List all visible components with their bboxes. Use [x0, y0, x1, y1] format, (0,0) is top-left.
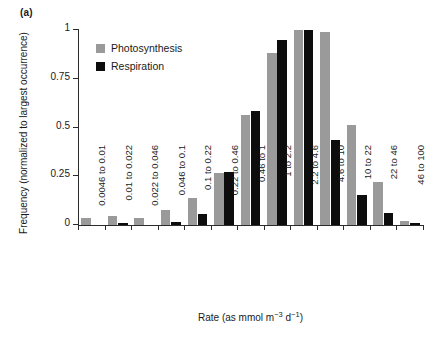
- legend-item-label: Respiration: [111, 60, 164, 72]
- bar-photosynthesis: [241, 115, 251, 225]
- x-axis-title: Rate (as mmol m−3 d−1): [78, 312, 423, 323]
- bar-photosynthesis: [400, 221, 410, 225]
- square-swatch-gray: [96, 44, 105, 53]
- x-axis-tick-label: 46 to 100: [415, 145, 427, 231]
- bar-photosynthesis: [294, 30, 304, 225]
- x-axis-tick: [78, 225, 79, 230]
- x-axis-title-mid: d: [283, 312, 291, 323]
- x-axis-title-exp2: −1: [291, 310, 300, 319]
- bar-photosynthesis: [108, 216, 118, 225]
- panel-label: (a): [20, 7, 33, 18]
- x-axis-tick-label: 0.046 to 0.1: [176, 145, 188, 231]
- bar-photosynthesis: [267, 53, 277, 225]
- bar-photosynthesis: [320, 32, 330, 225]
- y-axis-tick-label: 0.25: [51, 168, 70, 179]
- bar-photosynthesis: [373, 182, 383, 225]
- x-axis-title-exp1: −3: [274, 310, 283, 319]
- y-axis-tick-label: 0: [64, 217, 70, 228]
- x-axis-tick-label: 4.6 to 10: [335, 145, 347, 231]
- x-axis-tick-label: 2.2 to 4.6: [309, 145, 321, 231]
- x-axis-tick-label: 0.022 to 0.046: [149, 145, 161, 231]
- bar-photosynthesis: [347, 125, 357, 225]
- x-axis-tick-label: 1 to 2.2: [282, 145, 294, 231]
- bar-photosynthesis: [81, 218, 91, 225]
- square-swatch-black: [96, 62, 105, 71]
- x-axis-tick-label: 0.46 to 1: [256, 145, 268, 231]
- y-axis-tick-label: 0.5: [56, 120, 70, 131]
- y-axis-tick-label: 0.75: [51, 71, 70, 82]
- y-axis-title: Frequency (normalized to largest occurre…: [17, 18, 31, 248]
- x-axis-title-lead: Rate (as mmol m: [198, 312, 274, 323]
- legend-item: Respiration: [96, 58, 182, 74]
- bar-photosynthesis: [161, 210, 171, 225]
- legend-item: Photosynthesis: [96, 40, 182, 56]
- x-axis-tick-label: 22 to 46: [388, 145, 400, 231]
- x-axis-tick-label: 0.01 to 0.022: [123, 145, 135, 231]
- x-axis-title-tail: ): [300, 312, 303, 323]
- bar-photosynthesis: [188, 198, 198, 225]
- x-axis-tick-label: 0.22 to 0.46: [229, 145, 241, 231]
- x-axis-tick-label: 10 to 22: [362, 145, 374, 231]
- x-axis-tick-label: 0.1 to 0.22: [202, 145, 214, 231]
- legend-item-label: Photosynthesis: [111, 42, 182, 54]
- bar-photosynthesis: [214, 173, 224, 225]
- chart-legend: PhotosynthesisRespiration: [96, 40, 182, 76]
- figure-panel-a: (a) 00.250.50.751 0.0046 to 0.010.01 to …: [0, 0, 437, 340]
- bar-photosynthesis: [134, 218, 144, 225]
- x-axis-tick-label: 0.0046 to 0.01: [96, 145, 108, 231]
- y-axis-tick-label: 1: [64, 22, 70, 33]
